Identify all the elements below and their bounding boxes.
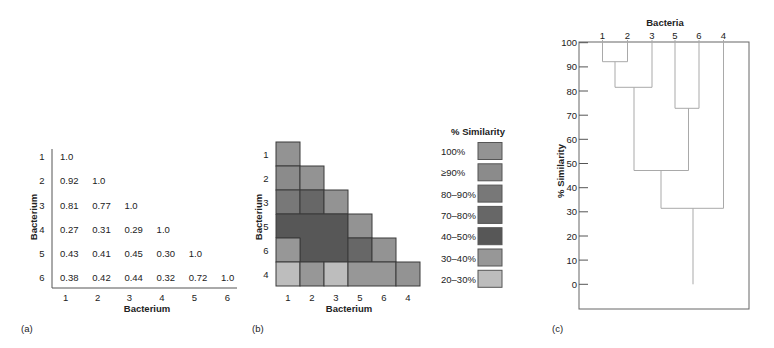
panel-b-col-label: 1 bbox=[285, 292, 290, 303]
panel-b-row-label: 5 bbox=[263, 221, 268, 232]
panel-b-x-axis-title: Bacterium bbox=[326, 303, 372, 314]
panel-a-row-label: 3 bbox=[39, 200, 44, 211]
matrix-value: 0.27 bbox=[60, 224, 79, 235]
figure-canvas: 1 2 3 4 5 6 1.0 0.92 1.0 0.81 0.77 1.0 0… bbox=[0, 0, 774, 348]
heatmap-cell bbox=[276, 190, 300, 214]
matrix-value: 0.44 bbox=[124, 272, 142, 283]
dendrogram-branches bbox=[603, 40, 724, 284]
heatmap-merged-cell bbox=[348, 262, 396, 286]
panel-a-row-label: 5 bbox=[39, 248, 44, 259]
heatmap-cell bbox=[324, 190, 348, 214]
matrix-value: 1.0 bbox=[221, 272, 234, 283]
matrix-value: 0.92 bbox=[60, 175, 79, 186]
matrix-value: 0.43 bbox=[60, 248, 79, 259]
panel-a-tag: (a) bbox=[21, 323, 33, 334]
heatmap-cell bbox=[276, 142, 300, 166]
y-tick-label: 10 bbox=[566, 255, 577, 266]
matrix-value: 0.42 bbox=[92, 272, 111, 283]
heatmap-cell bbox=[300, 190, 324, 214]
panel-a-y-axis-title: Bacterium bbox=[28, 194, 39, 240]
y-tick-label: 100 bbox=[561, 37, 577, 48]
matrix-value: 1.0 bbox=[60, 151, 73, 162]
panel-b-heatmap: 1 2 3 5 6 4 1 2 3 5 6 4 Bacterium Bacter… bbox=[252, 126, 506, 334]
panel-b-row-label: 4 bbox=[263, 269, 268, 280]
leaf-label: 6 bbox=[696, 30, 701, 41]
panel-a-similarity-matrix: 1 2 3 4 5 6 1.0 0.92 1.0 0.81 0.77 1.0 0… bbox=[21, 149, 237, 334]
legend-title: % Similarity bbox=[451, 126, 506, 137]
dendrogram-title: Bacteria bbox=[646, 17, 684, 28]
branch-12-3 bbox=[615, 40, 652, 87]
matrix-value: 1.0 bbox=[124, 200, 137, 211]
panel-b-col-label: 2 bbox=[309, 292, 314, 303]
panel-a-col-label: 6 bbox=[225, 292, 230, 303]
y-tick-label: 20 bbox=[566, 231, 577, 242]
legend-swatch bbox=[478, 249, 502, 266]
legend-swatch bbox=[478, 270, 502, 287]
legend-label: 80–90% bbox=[441, 189, 476, 200]
heatmap-cell bbox=[300, 166, 324, 190]
panel-b-col-label: 4 bbox=[405, 292, 410, 303]
y-tick-label: 50 bbox=[566, 158, 577, 169]
leaf-label: 5 bbox=[672, 30, 677, 41]
matrix-value: 0.81 bbox=[60, 200, 79, 211]
heatmap-cell bbox=[324, 262, 348, 286]
legend-swatch bbox=[478, 206, 502, 223]
heatmap-cell bbox=[372, 238, 396, 262]
matrix-value: 1.0 bbox=[92, 175, 105, 186]
heatmap-cell bbox=[396, 262, 420, 286]
panel-a-col-label: 5 bbox=[192, 292, 197, 303]
dendrogram-y-axis-title: % Similarity bbox=[555, 143, 566, 198]
y-tick-label: 40 bbox=[566, 182, 577, 193]
panel-a-row-label: 1 bbox=[39, 151, 44, 162]
panel-b-col-label: 3 bbox=[333, 292, 338, 303]
similarity-legend: % Similarity 100% ≥90% 80–90% 70–80% 40–… bbox=[441, 126, 506, 287]
panel-b-col-label: 5 bbox=[357, 292, 362, 303]
panel-c-tag: (c) bbox=[552, 323, 563, 334]
legend-label: 30–40% bbox=[441, 253, 476, 264]
matrix-value: 0.72 bbox=[189, 272, 208, 283]
panel-a-row-label: 4 bbox=[39, 224, 44, 235]
y-tick-label: 0 bbox=[572, 279, 577, 290]
legend-swatch bbox=[478, 185, 502, 202]
panel-b-row-label: 2 bbox=[263, 173, 268, 184]
panel-a-col-label: 3 bbox=[127, 292, 132, 303]
panel-a-row-label: 6 bbox=[39, 272, 44, 283]
y-tick-label: 90 bbox=[566, 61, 577, 72]
matrix-value: 0.77 bbox=[92, 200, 111, 211]
panel-b-row-label: 1 bbox=[263, 149, 268, 160]
panel-a-col-label: 4 bbox=[159, 292, 164, 303]
matrix-value: 0.31 bbox=[92, 224, 111, 235]
matrix-value: 0.38 bbox=[60, 272, 79, 283]
legend-swatch bbox=[478, 164, 502, 181]
heatmap-cell bbox=[348, 238, 372, 262]
matrix-value: 1.0 bbox=[157, 224, 170, 235]
panel-b-col-label: 6 bbox=[381, 292, 386, 303]
y-tick-label: 70 bbox=[566, 110, 577, 121]
panel-b-y-axis-title: Bacterium bbox=[253, 194, 264, 240]
matrix-value: 0.30 bbox=[157, 248, 176, 259]
panel-a-x-axis-title: Bacterium bbox=[124, 303, 170, 314]
leaf-label: 2 bbox=[625, 30, 630, 41]
legend-label: 20–30% bbox=[441, 274, 476, 285]
figure: 1 2 3 4 5 6 1.0 0.92 1.0 0.81 0.77 1.0 0… bbox=[0, 0, 774, 348]
heatmap-cell bbox=[276, 166, 300, 190]
heatmap-cell bbox=[276, 238, 300, 262]
branch-1-2 bbox=[603, 40, 628, 62]
matrix-value: 0.29 bbox=[124, 224, 142, 235]
panel-a-row-label: 2 bbox=[39, 175, 44, 186]
heatmap-cell bbox=[276, 262, 300, 286]
leaf-label: 3 bbox=[649, 30, 654, 41]
matrix-value: 0.41 bbox=[92, 248, 111, 259]
y-tick-label: 80 bbox=[566, 86, 577, 97]
panel-c-dendrogram: Bacteria 1 2 3 5 6 4 100 90 80 70 60 50 … bbox=[552, 17, 749, 334]
y-tick-label: 60 bbox=[566, 134, 577, 145]
legend-swatch bbox=[478, 228, 502, 245]
matrix-value: 0.45 bbox=[124, 248, 142, 259]
legend-label: 40–50% bbox=[441, 231, 476, 242]
heatmap-cell bbox=[348, 214, 372, 238]
legend-swatch bbox=[478, 143, 502, 160]
panel-b-tag: (b) bbox=[252, 323, 264, 334]
heatmap-cell bbox=[300, 262, 324, 286]
panel-b-row-label: 3 bbox=[263, 197, 268, 208]
branch-12356-4 bbox=[661, 40, 724, 208]
